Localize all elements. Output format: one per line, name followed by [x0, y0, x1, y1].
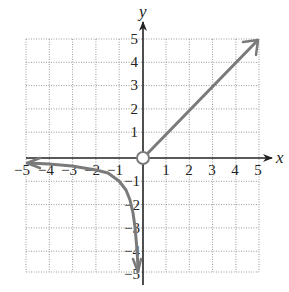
right-branch-line — [148, 42, 256, 153]
y-tick: −3 — [124, 220, 140, 236]
y-tick: 1 — [131, 124, 139, 140]
y-tick: 3 — [131, 77, 139, 93]
x-tick: 3 — [208, 162, 216, 178]
x-axis-label: x — [275, 148, 284, 167]
x-tick: 4 — [231, 162, 239, 178]
y-tick: −1 — [124, 173, 140, 189]
y-axis-label: y — [137, 2, 147, 21]
x-tick: 2 — [185, 162, 193, 178]
open-circle-origin — [137, 152, 149, 164]
left-branch-curve — [28, 163, 138, 270]
function-graph: x y −5 −4 −3 −2 −1 1 2 3 4 5 5 4 3 2 1 −… — [0, 0, 289, 292]
x-tick: 5 — [254, 162, 262, 178]
y-tick: 4 — [131, 54, 139, 70]
y-tick: 2 — [131, 101, 139, 117]
left-branch-curve — [28, 50, 140, 153]
x-tick: 1 — [162, 162, 170, 178]
y-tick: 5 — [131, 31, 139, 47]
